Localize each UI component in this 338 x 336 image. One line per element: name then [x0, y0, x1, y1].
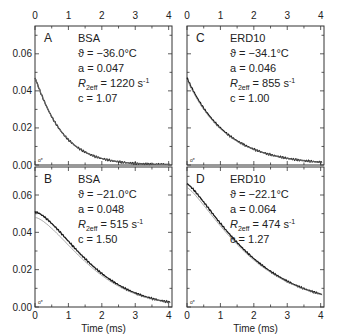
temperature-annotation: ϑ = −21.0°C — [78, 188, 137, 200]
origin-marker: o* — [190, 157, 195, 163]
c-annotation: c = 1.00 — [230, 92, 269, 104]
sample-name: ERD10 — [230, 32, 265, 44]
sample-name: BSA — [78, 32, 101, 44]
r2eff-annotation: R2eff = 474 s-1 — [230, 218, 295, 232]
x-tick-label-bottom: 4 — [166, 310, 172, 321]
panel-label: C — [196, 31, 205, 45]
x-tick-label-bottom: 3 — [132, 310, 138, 321]
x-tick-label-top: 4 — [166, 10, 172, 21]
x-tick-label-top: 3 — [284, 10, 290, 21]
y-tick-label: 0.04 — [13, 85, 33, 96]
origin-marker: o* — [38, 157, 43, 163]
y-tick-label: 0.06 — [13, 190, 33, 201]
r2eff-annotation: R2eff = 1220 s-1 — [78, 77, 149, 91]
c-annotation: c = 1.27 — [230, 233, 269, 245]
panel-label: D — [196, 172, 205, 186]
r2eff-annotation: R2eff = 855 s-1 — [230, 77, 295, 91]
x-tick-label-bottom: 3 — [284, 310, 290, 321]
x-tick-label-top: 3 — [132, 10, 138, 21]
x-axis-label: Time (ms) — [233, 323, 278, 334]
temperature-annotation: ϑ = −22.1°C — [230, 188, 289, 200]
origin-marker: o* — [38, 299, 43, 305]
panel-d: 01234Time (ms)o*DERD10ϑ = −22.1°Ca = 0.0… — [184, 167, 324, 334]
sample-name: ERD10 — [230, 173, 265, 185]
temperature-annotation: ϑ = −36.0°C — [78, 47, 137, 59]
amplitude-annotation: a = 0.048 — [78, 203, 124, 215]
y-tick-label: 0.02 — [13, 122, 33, 133]
x-tick-label-bottom: 4 — [318, 310, 324, 321]
panel-b: 0.000.020.040.0601234Time (ms)o*BBSAϑ = … — [13, 167, 172, 334]
decay-curve — [35, 78, 170, 164]
x-tick-label-top: 1 — [218, 10, 224, 21]
amplitude-annotation: a = 0.047 — [78, 62, 124, 74]
x-tick-label-bottom: 0 — [32, 310, 38, 321]
y-tick-label: 0.02 — [13, 264, 33, 275]
panel-label: A — [44, 31, 52, 45]
sample-name: BSA — [78, 173, 101, 185]
panel-a: 0.000.020.040.0601234o*ABSAϑ = −36.0°Ca … — [13, 10, 172, 171]
x-tick-label-bottom: 1 — [218, 310, 224, 321]
c-annotation: c = 1.50 — [78, 233, 117, 245]
y-tick-label: 0.04 — [13, 227, 33, 238]
y-tick-label: 0.00 — [13, 302, 33, 313]
x-tick-label-bottom: 1 — [66, 310, 72, 321]
y-tick-label: 0.06 — [13, 48, 33, 59]
x-tick-label-top: 0 — [184, 10, 190, 21]
x-tick-label-top: 0 — [32, 10, 38, 21]
panel-label: B — [44, 172, 52, 186]
r2eff-annotation: R2eff = 515 s-1 — [78, 218, 143, 232]
x-axis-label: Time (ms) — [81, 323, 126, 334]
x-tick-label-bottom: 2 — [99, 310, 105, 321]
origin-marker: o* — [190, 299, 195, 305]
x-tick-label-top: 2 — [251, 10, 257, 21]
figure-canvas: 0.000.020.040.0601234o*ABSAϑ = −36.0°Ca … — [0, 0, 338, 336]
temperature-annotation: ϑ = −34.1°C — [230, 47, 289, 59]
y-tick-label: 0.00 — [13, 160, 33, 171]
fit-curve — [35, 217, 170, 302]
x-tick-label-top: 1 — [66, 10, 72, 21]
x-tick-label-top: 2 — [99, 10, 105, 21]
x-tick-label-top: 4 — [318, 10, 324, 21]
panel-c: 01234o*CERD10ϑ = −34.1°Ca = 0.046R2eff =… — [184, 10, 324, 165]
x-tick-label-bottom: 0 — [184, 310, 190, 321]
c-annotation: c = 1.07 — [78, 92, 117, 104]
amplitude-annotation: a = 0.064 — [230, 203, 276, 215]
amplitude-annotation: a = 0.046 — [230, 62, 276, 74]
x-tick-label-bottom: 2 — [251, 310, 257, 321]
